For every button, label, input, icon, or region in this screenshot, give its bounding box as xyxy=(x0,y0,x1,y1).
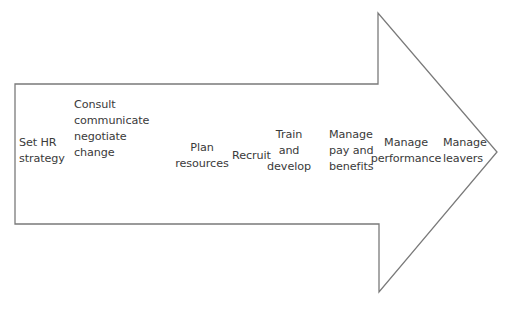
step-manage-performance: Manage performance xyxy=(368,135,444,167)
step-manage-leavers: Manage leavers xyxy=(443,135,487,167)
step-consult-communicate-negotiate-change: Consult communicate negotiate change xyxy=(74,97,149,161)
step-manage-pay-and-benefits: Manage pay and benefits xyxy=(329,127,373,175)
step-train-and-develop: Train and develop xyxy=(262,127,316,175)
step-set-hr-strategy: Set HR strategy xyxy=(19,135,65,167)
step-plan-resources: Plan resources xyxy=(172,140,232,172)
